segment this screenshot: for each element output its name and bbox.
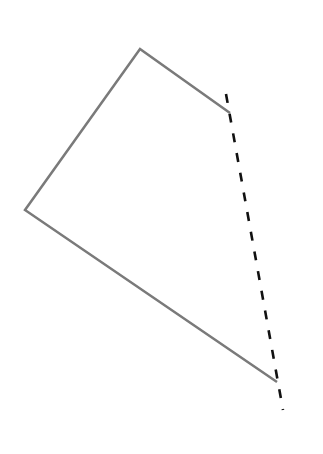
diagram-svg xyxy=(0,0,323,454)
diagram-canvas xyxy=(0,0,323,454)
dashed-line xyxy=(226,94,283,410)
open-polygon-path xyxy=(25,49,277,382)
